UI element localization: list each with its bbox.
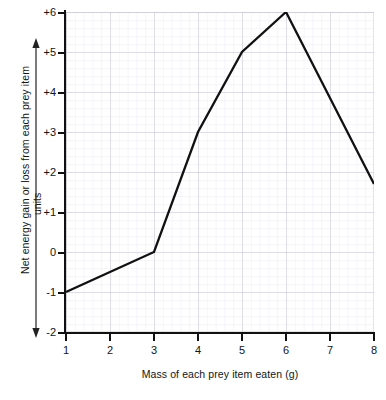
- y-tick-label: +4: [30, 86, 56, 98]
- chart-figure: Net energy gain or loss from each prey i…: [0, 0, 386, 400]
- x-axis-title: Mass of each prey item eaten (g): [66, 368, 374, 380]
- x-tick-mark: [329, 334, 331, 341]
- x-tick-label: 3: [142, 344, 166, 356]
- x-tick-label: 5: [230, 344, 254, 356]
- x-tick-label: 6: [274, 344, 298, 356]
- x-tick-mark: [109, 334, 111, 341]
- x-tick-mark: [285, 334, 287, 341]
- x-tick-label: 4: [186, 344, 210, 356]
- data-line: [66, 12, 374, 332]
- y-tick-label: -2: [30, 326, 56, 338]
- y-tick-label: +1: [30, 206, 56, 218]
- x-tick-mark: [65, 334, 67, 341]
- y-tick-label: +5: [30, 46, 56, 58]
- y-tick-label: +2: [30, 166, 56, 178]
- x-tick-mark: [373, 334, 375, 341]
- x-tick-mark: [241, 334, 243, 341]
- x-tick-mark: [153, 334, 155, 341]
- y-tick-label: +3: [30, 126, 56, 138]
- y-tick-label: -1: [30, 286, 56, 298]
- x-tick-label: 2: [98, 344, 122, 356]
- x-tick-mark: [197, 334, 199, 341]
- x-tick-label: 8: [362, 344, 386, 356]
- y-tick-label: +6: [30, 6, 56, 18]
- x-tick-label: 7: [318, 344, 342, 356]
- y-axis-line: [64, 10, 66, 334]
- y-axis-tick-labels: +6 +5 +4 +3 +2 +1 0 -1 -2: [28, 0, 56, 345]
- x-tick-label: 1: [54, 344, 78, 356]
- plot-area: [66, 12, 374, 332]
- y-tick-label: 0: [30, 246, 56, 258]
